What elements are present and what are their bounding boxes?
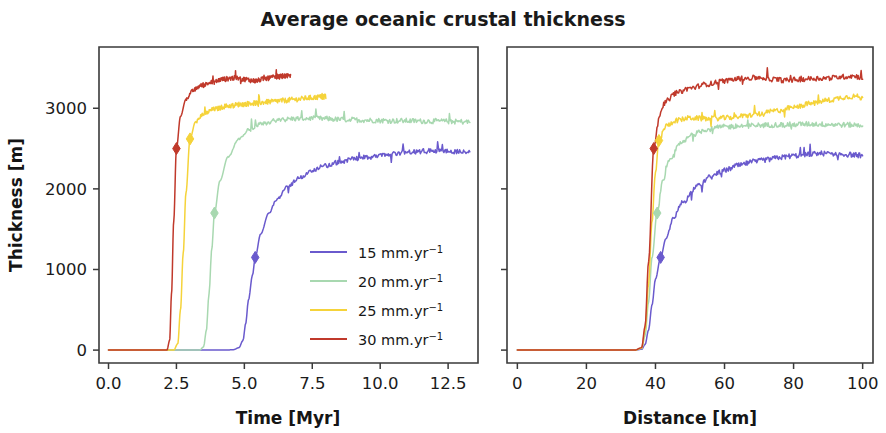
series-marker-20-mm-yr-1 xyxy=(653,207,661,219)
x-tick-label: 7.5 xyxy=(299,374,325,393)
series-line-15-mm-yr-1 xyxy=(517,144,862,350)
y-tick-label: 1000 xyxy=(45,260,87,279)
x-tick-label: 80 xyxy=(783,374,804,393)
left-panel-x-ticks: 0.02.55.07.510.012.5 xyxy=(95,363,466,393)
x-tick-label: 100 xyxy=(847,374,879,393)
right-panel: 020406080100 Distance [km] xyxy=(501,47,878,428)
right-panel-x-ticks: 020406080100 xyxy=(512,363,878,393)
left-panel-y-axis-label: Thickness [m] xyxy=(6,138,26,272)
page-title: Average oceanic crustal thickness xyxy=(260,8,625,30)
x-tick-label: 12.5 xyxy=(430,374,467,393)
x-tick-label: 40 xyxy=(645,374,666,393)
series-marker-15-mm-yr-1 xyxy=(657,251,665,263)
x-tick-label: 0 xyxy=(512,374,523,393)
left-panel-y-ticks: 0100020003000 xyxy=(45,99,99,360)
series-marker-25-mm-yr-1 xyxy=(186,133,194,145)
x-tick-label: 2.5 xyxy=(163,374,189,393)
series-marker-30-mm-yr-1 xyxy=(173,143,181,155)
left-panel-x-axis-label: Time [Myr] xyxy=(236,408,341,428)
left-panel: 15 mm.yr−120 mm.yr−125 mm.yr−130 mm.yr−1… xyxy=(6,47,478,428)
x-tick-label: 0.0 xyxy=(95,374,121,393)
x-tick-label: 60 xyxy=(714,374,735,393)
y-tick-label: 0 xyxy=(77,341,88,360)
x-tick-label: 10.0 xyxy=(362,374,399,393)
x-tick-label: 5.0 xyxy=(231,374,257,393)
series-line-25-mm-yr-1 xyxy=(109,94,326,351)
right-panel-x-axis-label: Distance [km] xyxy=(623,408,757,428)
y-tick-label: 3000 xyxy=(45,99,87,118)
series-line-30-mm-yr-1 xyxy=(109,70,291,350)
series-marker-20-mm-yr-1 xyxy=(211,207,219,219)
right-panel-curves xyxy=(517,68,862,350)
right-panel-y-ticks xyxy=(501,108,507,350)
x-tick-label: 20 xyxy=(576,374,597,393)
series-line-30-mm-yr-1 xyxy=(517,68,862,350)
series-line-25-mm-yr-1 xyxy=(517,94,862,350)
y-tick-label: 2000 xyxy=(45,180,87,199)
series-marker-15-mm-yr-1 xyxy=(251,251,258,263)
series-marker-30-mm-yr-1 xyxy=(650,143,658,155)
chart-figure: Average oceanic crustal thickness 15 mm.… xyxy=(0,0,886,433)
